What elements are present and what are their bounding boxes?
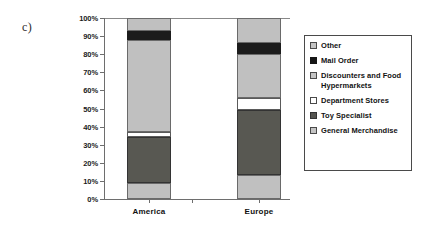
bar-segment[interactable] bbox=[127, 40, 171, 132]
legend-label: Toy Specialist bbox=[321, 111, 372, 121]
white-swatch-icon bbox=[310, 97, 317, 104]
legend-label: General Merchandise bbox=[321, 126, 398, 136]
y-tick-label: 0% bbox=[87, 195, 98, 204]
y-tick-mark bbox=[100, 109, 104, 110]
bar-europe[interactable] bbox=[237, 18, 281, 199]
bar-segment[interactable] bbox=[127, 18, 171, 31]
legend-label: Department Stores bbox=[321, 96, 389, 106]
y-tick-mark bbox=[100, 54, 104, 55]
y-axis-line bbox=[104, 18, 105, 200]
legend-item-general-merchandise[interactable]: General Merchandise bbox=[310, 126, 407, 136]
bar-segment[interactable] bbox=[127, 132, 171, 137]
legend-label: Discounters and Food Hypermarkets bbox=[321, 71, 407, 90]
y-tick-mark bbox=[100, 90, 104, 91]
panel-label: c) bbox=[22, 20, 32, 35]
bar-segment[interactable] bbox=[127, 137, 171, 182]
legend-item-mail-order[interactable]: Mail Order bbox=[310, 56, 407, 66]
bar-segment[interactable] bbox=[237, 110, 281, 175]
bar-segment[interactable] bbox=[237, 18, 281, 43]
bar-segment[interactable] bbox=[127, 183, 171, 199]
legend-label: Mail Order bbox=[321, 56, 359, 66]
black-swatch-icon bbox=[310, 57, 317, 64]
y-tick-mark bbox=[100, 199, 104, 200]
bar-segment[interactable] bbox=[237, 98, 281, 111]
y-tick-mark bbox=[100, 181, 104, 182]
x-category-label-america: America bbox=[133, 207, 166, 216]
bar-segment[interactable] bbox=[237, 43, 281, 54]
legend-label: Other bbox=[321, 41, 341, 51]
y-tick-label: 20% bbox=[83, 158, 98, 167]
y-tick-label: 40% bbox=[83, 122, 98, 131]
chart-figure: c) 0%10%20%30%40%50%60%70%80%90%100% Ame… bbox=[0, 0, 425, 231]
y-tick-label: 80% bbox=[83, 50, 98, 59]
y-tick-label: 10% bbox=[83, 176, 98, 185]
x-axis-line bbox=[104, 199, 290, 200]
bar-segment[interactable] bbox=[127, 31, 171, 40]
y-tick-mark bbox=[100, 36, 104, 37]
legend-item-department-stores[interactable]: Department Stores bbox=[310, 96, 407, 106]
y-tick-label: 50% bbox=[83, 104, 98, 113]
y-tick-mark bbox=[100, 72, 104, 73]
y-tick-mark bbox=[100, 163, 104, 164]
y-tick-mark bbox=[100, 145, 104, 146]
legend-item-discounters-and-food-hypermarkets[interactable]: Discounters and Food Hypermarkets bbox=[310, 71, 407, 90]
y-tick-label: 70% bbox=[83, 68, 98, 77]
x-tick-mark-separator bbox=[192, 199, 193, 203]
light-gray-swatch-icon bbox=[310, 72, 317, 79]
y-tick-label: 30% bbox=[83, 140, 98, 149]
bar-america[interactable] bbox=[127, 18, 171, 199]
legend-item-other[interactable]: Other bbox=[310, 41, 407, 51]
x-category-label-europe: Europe bbox=[245, 207, 274, 216]
bar-segment[interactable] bbox=[237, 54, 281, 97]
light-gray-swatch-icon bbox=[310, 127, 317, 134]
y-tick-label: 60% bbox=[83, 86, 98, 95]
plot-area: 0%10%20%30%40%50%60%70%80%90%100% Americ… bbox=[104, 18, 290, 199]
bar-segment[interactable] bbox=[237, 175, 281, 199]
y-tick-mark bbox=[100, 127, 104, 128]
x-tick-mark bbox=[149, 199, 150, 203]
x-tick-mark bbox=[259, 199, 260, 203]
light-gray-swatch-icon bbox=[310, 42, 317, 49]
y-tick-label: 100% bbox=[79, 14, 98, 23]
y-tick-label: 90% bbox=[83, 32, 98, 41]
chart-legend: OtherMail OrderDiscounters and Food Hype… bbox=[304, 35, 412, 171]
dark-gray-swatch-icon bbox=[310, 112, 317, 119]
y-tick-mark bbox=[100, 18, 104, 19]
legend-item-toy-specialist[interactable]: Toy Specialist bbox=[310, 111, 407, 121]
